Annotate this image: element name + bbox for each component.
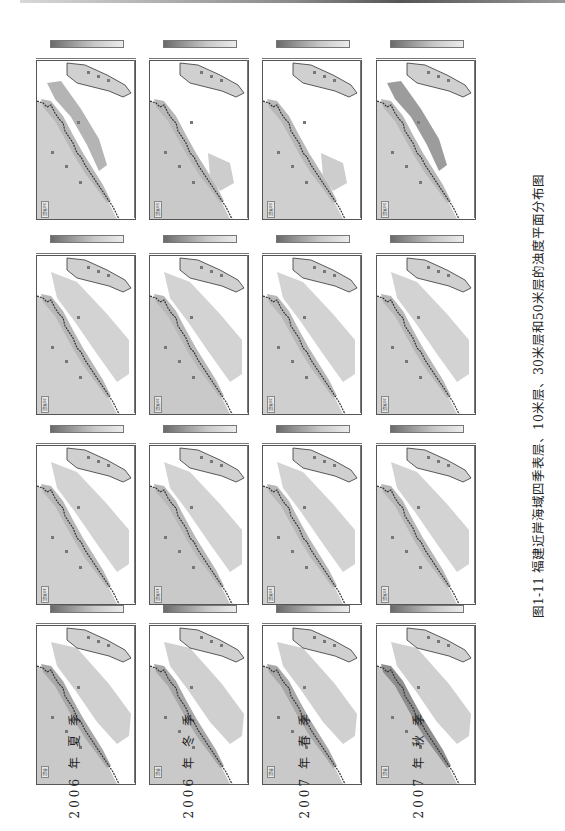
- map-graphic: [150, 446, 248, 604]
- station-marker: [87, 71, 90, 74]
- station-marker: [192, 376, 195, 379]
- layer-label: 30米层: [267, 396, 275, 413]
- longitude-axis: [134, 255, 141, 413]
- layer-label: 表层: [41, 766, 49, 778]
- station-marker: [405, 360, 408, 363]
- longitude-axis: [134, 445, 141, 603]
- layer-label: 表层: [267, 766, 275, 778]
- station-marker: [313, 636, 316, 639]
- station-marker: [417, 506, 420, 509]
- latitude-axis: [262, 437, 362, 444]
- layer-label: 50米层: [41, 201, 49, 218]
- map-panel-2007-autumn-50m: 50米层: [372, 40, 480, 222]
- colorbar-legend: [390, 40, 464, 48]
- station-marker: [200, 636, 203, 639]
- station-marker: [51, 716, 54, 719]
- map-panel-2006-winter-surface: 表层: [145, 605, 253, 787]
- station-marker: [303, 316, 306, 319]
- station-marker: [305, 566, 308, 569]
- map-panel-2006-summer-surface: 表层: [32, 605, 140, 787]
- longitude-axis: [360, 255, 367, 413]
- station-marker: [437, 640, 440, 643]
- station-marker: [97, 640, 100, 643]
- station-marker: [333, 464, 336, 467]
- map-panel-2007-spring-surface: 表层: [258, 605, 366, 787]
- longitude-axis: [360, 625, 367, 783]
- figure-caption: 图1-11 福建近岸海域四季表层、10米层、30米层和50米层的浊度平面分布图: [528, 174, 547, 618]
- station-marker: [427, 636, 430, 639]
- station-marker: [405, 550, 408, 553]
- latitude-axis: [262, 52, 362, 59]
- station-marker: [405, 165, 408, 168]
- layer-label: 10米层: [267, 586, 275, 603]
- station-marker: [107, 464, 110, 467]
- turbidity-map: 30米层: [262, 255, 362, 415]
- station-marker: [391, 151, 394, 154]
- map-panel-2007-spring-50m: 50米层: [258, 40, 366, 222]
- station-marker: [323, 75, 326, 78]
- turbidity-map: 10米层: [36, 445, 136, 605]
- map-panel-2006-winter-50m: 50米层: [145, 40, 253, 222]
- colorbar-legend: [163, 235, 237, 243]
- map-graphic: [377, 256, 475, 414]
- turbidity-map: 30米层: [149, 255, 249, 415]
- station-marker: [220, 274, 223, 277]
- map-panel-2007-autumn-10m: 10米层: [372, 425, 480, 607]
- colorbar-legend: [390, 425, 464, 433]
- layer-label: 30米层: [381, 396, 389, 413]
- turbidity-map: 表层: [149, 625, 249, 785]
- turbidity-map: 10米层: [149, 445, 249, 605]
- station-marker: [220, 79, 223, 82]
- map-panel-2006-summer-50m: 50米层: [32, 40, 140, 222]
- station-marker: [65, 550, 68, 553]
- latitude-axis: [376, 247, 476, 254]
- station-marker: [313, 456, 316, 459]
- map-graphic: [263, 626, 361, 784]
- layer-label: 30米层: [154, 396, 162, 413]
- layer-label: 表层: [381, 766, 389, 778]
- station-marker: [291, 730, 294, 733]
- turbidity-map: 30米层: [376, 255, 476, 415]
- station-marker: [277, 536, 280, 539]
- station-marker: [323, 270, 326, 273]
- station-marker: [51, 151, 54, 154]
- map-graphic: [263, 256, 361, 414]
- longitude-axis: [474, 445, 481, 603]
- station-marker: [79, 376, 82, 379]
- map-panel-2006-winter-30m: 30米层: [145, 235, 253, 417]
- station-marker: [277, 346, 280, 349]
- map-graphic: [377, 626, 475, 784]
- station-marker: [333, 644, 336, 647]
- layer-label: 10米层: [154, 586, 162, 603]
- station-marker: [210, 270, 213, 273]
- colorbar-legend: [50, 40, 124, 48]
- latitude-axis: [376, 617, 476, 624]
- colorbar-legend: [276, 425, 350, 433]
- map-graphic: [37, 626, 135, 784]
- colorbar-legend: [163, 40, 237, 48]
- station-marker: [178, 360, 181, 363]
- season-label-2007-spring: 2007 年 春 季: [295, 749, 312, 819]
- station-marker: [164, 151, 167, 154]
- station-marker: [447, 644, 450, 647]
- station-marker: [333, 274, 336, 277]
- latitude-axis: [36, 437, 136, 444]
- longitude-axis: [474, 60, 481, 218]
- longitude-axis: [134, 60, 141, 218]
- station-marker: [190, 506, 193, 509]
- station-marker: [437, 270, 440, 273]
- station-marker: [190, 121, 193, 124]
- station-marker: [97, 270, 100, 273]
- station-marker: [303, 121, 306, 124]
- layer-label: 30米层: [41, 396, 49, 413]
- station-marker: [447, 464, 450, 467]
- station-marker: [437, 75, 440, 78]
- station-marker: [417, 686, 420, 689]
- station-marker: [107, 644, 110, 647]
- turbidity-map: 表层: [36, 625, 136, 785]
- latitude-axis: [149, 617, 249, 624]
- station-marker: [87, 266, 90, 269]
- map-panel-2006-summer-30m: 30米层: [32, 235, 140, 417]
- station-marker: [303, 686, 306, 689]
- station-marker: [200, 266, 203, 269]
